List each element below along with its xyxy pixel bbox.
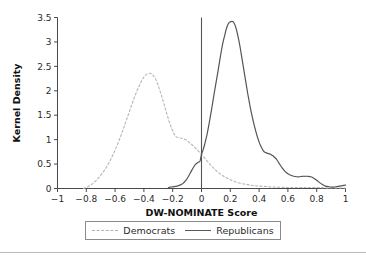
x-axis-tick-label: −1: [51, 194, 64, 204]
chart-legend: Democrats Republicans: [85, 221, 281, 240]
legend-label-democrats: Democrats: [123, 225, 175, 236]
series-line-republicans: [168, 21, 345, 187]
x-axis-tick-label: −0.6: [104, 194, 126, 204]
x-axis-tick-label: 1: [343, 194, 349, 204]
y-axis-tick-label: 2.5: [37, 62, 51, 72]
y-axis-tick-label: 3.5: [37, 13, 51, 23]
y-axis-title: Kernel Density: [11, 63, 22, 143]
y-axis-tick-label: 0: [46, 184, 52, 194]
x-axis-tick-label: −0.4: [133, 194, 155, 204]
x-axis-tick-label: −0.8: [75, 194, 97, 204]
x-axis-tick-label: 0: [199, 194, 205, 204]
y-axis-tick-label: 1: [46, 135, 52, 145]
legend-entry-democrats: Democrats: [92, 225, 175, 236]
x-axis-tick-label: 0.8: [310, 194, 325, 204]
y-axis-tick-label: 2: [46, 86, 52, 96]
legend-swatch-solid-icon: [185, 230, 211, 231]
legend-swatch-dashed-icon: [92, 230, 118, 231]
kernel-density-figure: 00.511.522.533.5−1−0.8−0.6−0.4−0.200.20.…: [0, 0, 366, 259]
y-axis-tick-label: 3: [46, 37, 52, 47]
legend-label-republicans: Republicans: [216, 225, 273, 236]
y-axis-tick-label: 1.5: [37, 110, 51, 120]
x-axis-tick-label: 0.6: [281, 194, 296, 204]
x-axis-tick-label: 0.2: [223, 194, 237, 204]
x-axis-tick-label: 0.4: [252, 194, 267, 204]
legend-entry-republicans: Republicans: [185, 225, 273, 236]
y-axis-tick-label: 0.5: [37, 159, 51, 169]
x-axis-tick-label: −0.2: [162, 194, 184, 204]
footer-divider: [0, 252, 366, 253]
x-axis-title: DW-NOMINATE Score: [146, 207, 258, 218]
